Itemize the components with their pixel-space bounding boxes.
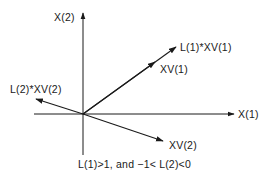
eigenvector-diagram: X(2) X(1) L(1)*XV(1) XV(1) XV(2) L(2)*XV… (0, 0, 269, 182)
label-xv1: XV(1) (160, 64, 188, 75)
vector-l2-xv2 (36, 99, 83, 114)
x-axis-label: X(1) (238, 109, 259, 120)
label-l2-xv2: L(2)*XV(2) (10, 84, 62, 95)
label-xv2: XV(2) (169, 140, 197, 151)
y-axis-label: X(2) (54, 12, 75, 23)
caption: L(1)>1, and −1< L(2)<0 (78, 159, 191, 170)
label-l1-xv1: L(1)*XV(1) (180, 42, 232, 53)
vector-xv2 (83, 114, 163, 141)
vector-xv1 (83, 62, 155, 114)
